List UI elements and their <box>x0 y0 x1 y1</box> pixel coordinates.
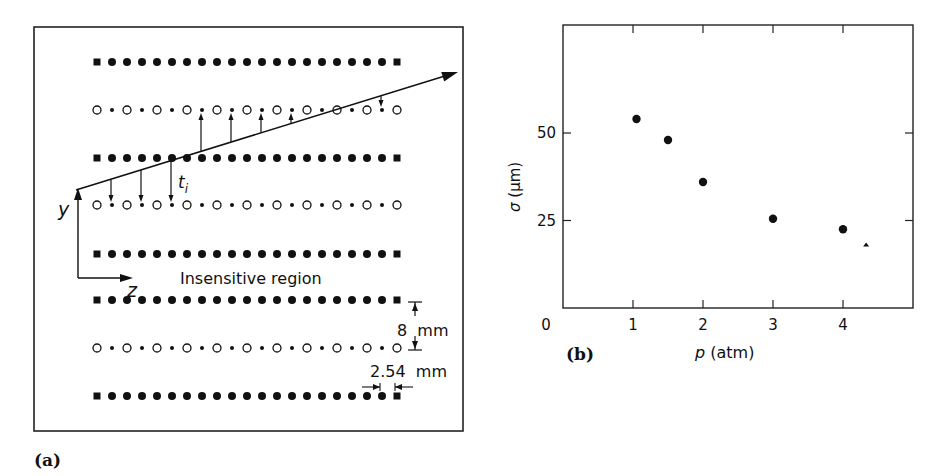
cathode-wire-icon <box>138 250 146 258</box>
anode-wire-icon <box>380 108 384 112</box>
field-wire-icon <box>123 106 131 114</box>
end-square-icon <box>94 297 101 304</box>
track-arrowhead-icon <box>441 72 458 82</box>
cathode-wire-icon <box>243 58 251 66</box>
cathode-wire-icon <box>378 58 386 66</box>
cathode-wire-icon <box>198 58 206 66</box>
anode-wire-icon <box>260 203 264 207</box>
anode-wire-icon <box>320 346 324 350</box>
anode-wire-icon <box>170 203 174 207</box>
anode-wire-icon <box>200 346 204 350</box>
anode-wire-icon <box>350 203 354 207</box>
cathode-wire-icon <box>138 154 146 162</box>
drift-arrow-icon <box>139 195 144 202</box>
y-axis-title: σ (μm) <box>506 162 524 212</box>
particle-track <box>76 72 458 190</box>
anode-wire-icon <box>200 203 204 207</box>
figure: y z ti Insensitive region 8 mm 2.54 mm (… <box>0 0 933 476</box>
x-tick-label: 1 <box>628 316 638 334</box>
cathode-wire-icon <box>363 58 371 66</box>
data-point <box>632 115 640 123</box>
cathode-wire-icon <box>153 296 161 304</box>
field-wire-icon <box>303 344 311 352</box>
field-wire-icon <box>93 106 101 114</box>
field-wire-icon <box>213 106 221 114</box>
field-wire-icon <box>183 106 191 114</box>
drift-arrow-icon <box>169 195 174 202</box>
cathode-wire-icon <box>228 296 236 304</box>
x-tick-label: 0 <box>541 316 551 334</box>
cathode-wire-icon <box>258 58 266 66</box>
field-wire-icon <box>393 106 401 114</box>
cathode-wire-icon <box>273 250 281 258</box>
cathode-wire-icon <box>138 392 146 400</box>
cathode-wire-icon <box>378 250 386 258</box>
anode-wire-icon <box>380 346 384 350</box>
end-square-icon <box>94 251 101 258</box>
field-wire-icon <box>183 344 191 352</box>
end-square-icon <box>394 251 401 258</box>
data-point <box>769 215 777 223</box>
cathode-wire-icon <box>108 250 116 258</box>
data-points <box>632 115 869 247</box>
anode-wire-icon <box>230 108 234 112</box>
x-var: p <box>694 343 705 362</box>
dimension-8mm: 8 mm <box>397 302 449 350</box>
panel-b-resolution-chart: 012342550 p (atm) σ (μm) (b) <box>506 25 913 364</box>
field-wire-icon <box>213 201 221 209</box>
anode-wire-icon <box>170 108 174 112</box>
anode-wire-icon <box>230 203 234 207</box>
cathode-wire-icon <box>153 58 161 66</box>
data-point <box>664 136 672 144</box>
anode-wire-icon <box>140 346 144 350</box>
field-wire-icon <box>363 344 371 352</box>
anode-wire-icon <box>170 346 174 350</box>
cathode-wire-icon <box>213 58 221 66</box>
anode-wire-icon <box>260 108 264 112</box>
end-square-icon <box>394 59 401 66</box>
axis-ticks: 012342550 <box>537 25 913 334</box>
field-wire-icon <box>213 344 221 352</box>
field-wire-icon <box>123 344 131 352</box>
cathode-wire-icon <box>303 392 311 400</box>
cathode-wire-icon <box>213 392 221 400</box>
y-axis-label: y <box>57 198 70 220</box>
cathode-wire-icon <box>123 392 131 400</box>
x-tick-label: 2 <box>698 316 708 334</box>
data-point-triangle <box>863 243 869 247</box>
x-unit: (atm) <box>705 343 754 362</box>
cathode-wire-icon <box>198 154 206 162</box>
field-wire-icon <box>153 106 161 114</box>
cathode-wire-icon <box>288 296 296 304</box>
data-point <box>699 178 707 186</box>
cathode-wire-icon <box>108 154 116 162</box>
field-wire-icon <box>273 106 281 114</box>
cathode-wire-icon <box>363 392 371 400</box>
cathode-wire-icon <box>198 250 206 258</box>
cathode-wire-icon <box>273 154 281 162</box>
anode-wire-icon <box>260 346 264 350</box>
field-wire-icon <box>243 106 251 114</box>
field-wire-icon <box>303 106 311 114</box>
drift-arrow-icon <box>199 113 204 120</box>
insensitive-region-label: Insensitive region <box>180 269 322 288</box>
anode-wire-icon <box>380 203 384 207</box>
cathode-wire-icon <box>153 250 161 258</box>
cathode-wire-icon <box>168 392 176 400</box>
anode-wire-icon <box>140 203 144 207</box>
anode-wire-icon <box>290 346 294 350</box>
wire-rows <box>93 58 401 400</box>
cathode-wire-icon <box>378 392 386 400</box>
cathode-wire-icon <box>228 392 236 400</box>
field-wire-icon <box>333 344 341 352</box>
cathode-wire-icon <box>378 154 386 162</box>
anode-wire-icon <box>290 108 294 112</box>
dim-2-54mm-label: 2.54 mm <box>370 362 447 381</box>
drift-time-label: ti <box>178 172 189 196</box>
field-wire-icon <box>93 344 101 352</box>
panel-a-label: (a) <box>34 450 61 470</box>
cathode-wire-icon <box>378 296 386 304</box>
cathode-wire-icon <box>213 154 221 162</box>
cathode-wire-icon <box>348 250 356 258</box>
dim-8mm-label: 8 mm <box>397 321 449 340</box>
